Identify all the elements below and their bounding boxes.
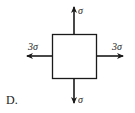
stress-element-diagram: σ σ 3σ 3σ D. [0, 0, 135, 113]
top-force-label: σ [78, 5, 84, 16]
left-force-label: 3σ [27, 41, 39, 52]
option-label: D. [6, 93, 18, 107]
right-force-label: 3σ [111, 41, 123, 52]
stress-element-square [53, 35, 97, 79]
bottom-force-label: σ [78, 94, 84, 105]
